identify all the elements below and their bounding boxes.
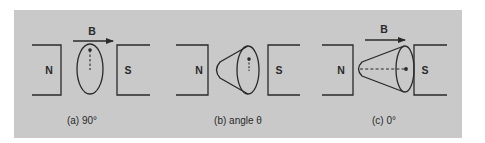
north-pole-label: N bbox=[45, 64, 53, 76]
south-pole-magnet bbox=[414, 45, 447, 95]
panel-c: N S B (c) 0° bbox=[322, 23, 447, 126]
panel-b: N S (b) angle θ bbox=[176, 45, 300, 126]
moment-dot bbox=[88, 48, 92, 52]
north-pole-magnet bbox=[176, 45, 208, 95]
field-label: B bbox=[380, 23, 388, 35]
south-pole-label: S bbox=[124, 64, 131, 76]
caption-c: (c) 0° bbox=[372, 115, 396, 126]
magnetic-precession-diagram: N S B (a) 90° N S (b) angle θ N bbox=[0, 0, 485, 143]
field-label: B bbox=[88, 25, 96, 37]
moment-dot bbox=[404, 67, 408, 71]
panel-a: N S B (a) 90° bbox=[32, 25, 150, 126]
south-pole-label: S bbox=[421, 64, 428, 76]
south-pole-magnet bbox=[268, 45, 300, 95]
caption-a: (a) 90° bbox=[67, 115, 97, 126]
precession-cone bbox=[217, 46, 249, 94]
south-pole-label: S bbox=[275, 64, 282, 76]
orbit-ellipse bbox=[237, 46, 259, 94]
south-pole-magnet bbox=[117, 45, 150, 95]
north-pole-label: N bbox=[337, 64, 345, 76]
north-pole-label: N bbox=[195, 64, 203, 76]
caption-b: (b) angle θ bbox=[214, 115, 262, 126]
moment-dot bbox=[247, 57, 251, 61]
